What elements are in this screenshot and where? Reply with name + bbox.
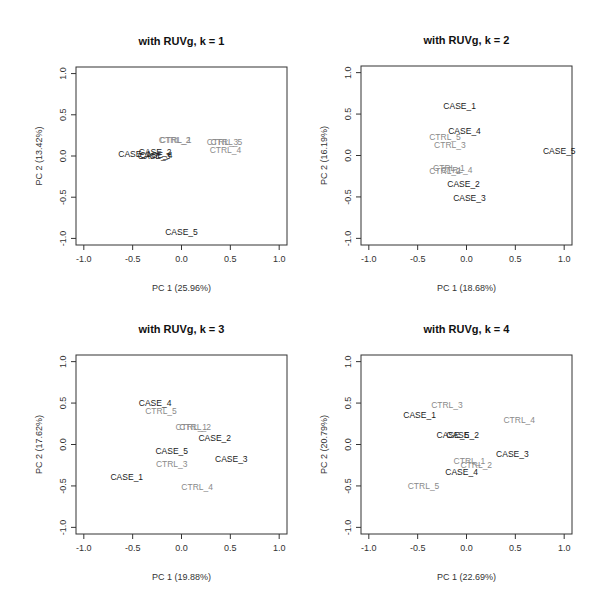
- x-tick-label: -0.5: [125, 254, 141, 264]
- x-tick-label: 1.0: [273, 254, 286, 264]
- x-axis-label: PC 1 (25.96%): [152, 283, 211, 293]
- x-tick-label: -0.5: [410, 543, 426, 553]
- y-axis-label: PC 2 (20.79%): [319, 415, 329, 474]
- y-tick-label: 1.0: [58, 355, 68, 368]
- y-tick-label: -0.5: [343, 189, 353, 205]
- x-axis: -1.0-0.50.00.51.0: [361, 534, 570, 553]
- x-tick-label: 0.0: [175, 254, 188, 264]
- sample-label-case-5: CASE_5: [543, 146, 576, 156]
- x-tick-label: 0.5: [509, 543, 522, 553]
- pca-plot-k1: with RUVg, k = 1-1.0-0.50.00.51.0PC 1 (2…: [0, 0, 300, 300]
- sample-label-ctrl-2: CTRL_2: [179, 422, 211, 432]
- y-axis-label: PC 2 (13.42%): [34, 126, 44, 185]
- sample-label-case-4: CASE_4: [445, 467, 478, 477]
- y-axis: -1.0-0.50.00.51.0: [58, 67, 76, 246]
- y-tick-label: 1.0: [343, 66, 353, 79]
- x-axis-label: PC 1 (19.88%): [152, 572, 211, 582]
- y-tick-label: 0.5: [58, 397, 68, 410]
- sample-labels: CASE_4CTRL_5CTRL_1CTRL_2CASE_2CASE_5CTRL…: [110, 398, 247, 492]
- x-tick-label: 0.5: [509, 254, 522, 264]
- y-tick-label: -1.0: [58, 231, 68, 247]
- sample-label-ctrl-3: CTRL_3: [156, 459, 188, 469]
- pca-panel-k1: with RUVg, k = 1-1.0-0.50.00.51.0PC 1 (2…: [0, 0, 300, 300]
- chart-title: with RUVg, k = 3: [138, 323, 225, 335]
- y-axis-label: PC 2 (16.19%): [319, 126, 329, 185]
- sample-label-ctrl-4: CTRL_4: [503, 415, 535, 425]
- chart-title: with RUVg, k = 4: [423, 323, 511, 335]
- sample-labels: CASE_1CASE_2CASE_3CASE_4CASE_5CTRL_1CTRL…: [118, 135, 242, 237]
- x-tick-label: 1.0: [558, 543, 571, 553]
- sample-label-ctrl-5: CTRL_5: [145, 406, 177, 416]
- sample-label-case-2: CASE_2: [447, 179, 480, 189]
- pca-panel-k4: with RUVg, k = 4-1.0-0.50.00.51.0PC 1 (2…: [300, 300, 607, 610]
- y-tick-label: -0.5: [58, 478, 68, 494]
- x-tick-label: -0.5: [410, 254, 426, 264]
- sample-label-case-1: CASE_1: [110, 472, 143, 482]
- x-axis: -1.0-0.50.00.51.0: [76, 245, 285, 264]
- sample-label-ctrl-3: CTRL_3: [434, 140, 466, 150]
- sample-label-ctrl-3: CTRL_3: [431, 400, 463, 410]
- y-axis: -1.0-0.50.00.51.0: [58, 355, 76, 535]
- sample-label-case-1: CASE_1: [443, 101, 476, 111]
- plot-frame: [361, 66, 572, 245]
- y-axis: -1.0-0.50.00.51.0: [343, 66, 361, 246]
- plot-frame: [76, 355, 287, 534]
- y-tick-label: -0.5: [58, 189, 68, 205]
- x-axis: -1.0-0.50.00.51.0: [361, 245, 570, 264]
- sample-label-case-5: CASE_5: [155, 446, 188, 456]
- sample-label-ctrl-2: CTRL_2: [159, 135, 191, 145]
- y-tick-label: 0.0: [343, 149, 353, 162]
- y-tick-label: 0.0: [343, 438, 353, 451]
- y-tick-label: 0.5: [343, 108, 353, 121]
- sample-label-ctrl-5: CTRL_5: [408, 481, 440, 491]
- sample-label-ctrl-2: CTRL_2: [429, 166, 461, 176]
- pca-plot-k2: with RUVg, k = 2-1.0-0.50.00.51.0PC 1 (1…: [300, 0, 607, 300]
- sample-label-case-3: CASE_3: [496, 449, 529, 459]
- y-tick-label: 0.5: [58, 109, 68, 122]
- sample-label-case-1: CASE_1: [403, 410, 436, 420]
- x-tick-label: 0.0: [175, 543, 188, 553]
- x-tick-label: 1.0: [273, 543, 286, 553]
- chart-title: with RUVg, k = 2: [423, 34, 510, 46]
- sample-label-case-2: CASE_2: [198, 433, 231, 443]
- y-tick-label: -1.0: [343, 231, 353, 247]
- x-tick-label: -0.5: [125, 543, 141, 553]
- y-axis-label: PC 2 (17.62%): [34, 415, 44, 474]
- y-axis: -1.0-0.50.00.51.0: [343, 355, 361, 535]
- y-tick-label: 0.0: [58, 438, 68, 451]
- chart-title: with RUVg, k = 1: [138, 35, 225, 47]
- x-axis: -1.0-0.50.00.51.0: [76, 534, 285, 553]
- sample-label-case-2: CASE_2: [446, 430, 479, 440]
- y-tick-label: -1.0: [343, 520, 353, 536]
- x-axis-label: PC 1 (18.68%): [437, 283, 496, 293]
- x-tick-label: 0.5: [224, 254, 237, 264]
- x-axis-label: PC 1 (22.69%): [437, 572, 496, 582]
- plot-frame: [361, 355, 572, 534]
- x-tick-label: -1.0: [361, 543, 377, 553]
- sample-label-case-3: CASE_3: [215, 454, 248, 464]
- x-tick-label: 0.5: [224, 543, 237, 553]
- sample-label-case-4: CASE_4: [140, 150, 173, 160]
- sample-label-ctrl-4: CTRL_4: [181, 482, 213, 492]
- sample-labels: CTRL_3CASE_1CTRL_4CASE_5CASE_2CASE_3CTRL…: [403, 400, 535, 491]
- y-tick-label: -0.5: [343, 478, 353, 494]
- x-tick-label: 1.0: [558, 254, 571, 264]
- x-tick-label: -1.0: [361, 254, 377, 264]
- sample-label-case-5: CASE_5: [165, 227, 198, 237]
- y-tick-label: 1.0: [343, 355, 353, 368]
- pca-plot-k3: with RUVg, k = 3-1.0-0.50.00.51.0PC 1 (1…: [0, 300, 300, 610]
- y-tick-label: 1.0: [58, 67, 68, 80]
- pca-panel-k2: with RUVg, k = 2-1.0-0.50.00.51.0PC 1 (1…: [300, 0, 607, 300]
- sample-label-ctrl-4: CTRL_4: [210, 145, 242, 155]
- sample-label-case-3: CASE_3: [453, 193, 486, 203]
- x-tick-label: -1.0: [76, 543, 92, 553]
- y-tick-label: 0.0: [58, 150, 68, 163]
- sample-labels: CASE_1CASE_4CTRL_5CTRL_3CASE_5CTRL_1CTRL…: [429, 101, 576, 203]
- x-tick-label: 0.0: [460, 543, 473, 553]
- y-tick-label: -1.0: [58, 520, 68, 536]
- pca-panel-k3: with RUVg, k = 3-1.0-0.50.00.51.0PC 1 (1…: [0, 300, 300, 610]
- y-tick-label: 0.5: [343, 397, 353, 410]
- x-tick-label: -1.0: [76, 254, 92, 264]
- pca-plot-k4: with RUVg, k = 4-1.0-0.50.00.51.0PC 1 (2…: [300, 300, 607, 610]
- x-tick-label: 0.0: [460, 254, 473, 264]
